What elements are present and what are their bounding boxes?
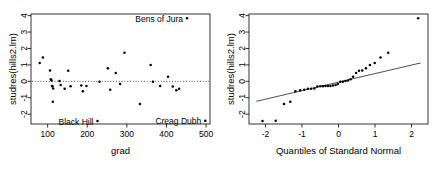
x-axis-tick-label: 200: [80, 129, 94, 139]
data-point: [186, 17, 189, 20]
data-point: [49, 69, 52, 72]
y-axis-tick-label: -2: [19, 110, 29, 118]
y-axis-label: studres(hills2.lm): [7, 33, 18, 105]
data-point: [387, 51, 390, 54]
data-point: [365, 67, 368, 70]
data-point: [342, 80, 345, 83]
data-point: [274, 119, 277, 122]
data-point: [334, 84, 337, 87]
data-point: [96, 120, 99, 123]
data-point: [310, 87, 313, 90]
y-axis-tick-label: 2: [237, 46, 247, 51]
x-axis-tick-label: -1: [298, 129, 306, 139]
data-point: [324, 85, 327, 88]
y-axis-tick-label: 0: [19, 79, 29, 84]
y-axis-tick-label: 2: [19, 46, 29, 51]
y-axis-tick-label: -1: [19, 94, 29, 102]
data-point: [379, 56, 382, 59]
x-axis-label: grad: [111, 145, 130, 156]
data-point: [114, 72, 117, 75]
residuals-vs-grad-panel: 100200300400500-2-101234gradstudres(hill…: [0, 0, 218, 172]
x-axis-tick-label: -2: [262, 129, 270, 139]
data-point: [42, 56, 45, 59]
data-point: [337, 83, 340, 86]
data-point: [339, 81, 342, 84]
data-point: [204, 119, 207, 122]
data-point: [51, 85, 54, 88]
data-point: [349, 78, 352, 81]
data-point: [58, 80, 61, 83]
data-point: [361, 69, 364, 72]
data-point: [316, 85, 319, 88]
data-point: [261, 120, 264, 123]
data-point: [332, 84, 335, 87]
figure-panel-pair: 100200300400500-2-101234gradstudres(hill…: [0, 0, 436, 172]
data-point: [172, 85, 175, 88]
y-axis-tick-label: 4: [237, 13, 247, 18]
data-point: [329, 85, 332, 88]
data-point: [327, 85, 330, 88]
data-point: [347, 79, 350, 82]
data-point: [52, 101, 55, 104]
y-axis-tick-label: 1: [237, 62, 247, 67]
normal-qq-plot: -2-1012-2-101234Quantiles of Standard No…: [218, 0, 436, 172]
x-axis-tick-label: 1: [373, 129, 378, 139]
point-annotation-label: Creag Dubh: [155, 116, 201, 126]
y-axis-tick-label: -2: [237, 110, 247, 118]
y-axis-tick-label: 1: [19, 62, 29, 67]
data-point: [322, 85, 325, 88]
y-axis-tick-label: 0: [237, 79, 247, 84]
data-point: [59, 84, 62, 87]
data-point: [369, 64, 372, 67]
plot-frame: [31, 14, 210, 124]
data-point: [417, 17, 420, 20]
data-point: [358, 69, 361, 72]
data-point: [319, 85, 322, 88]
data-point: [313, 87, 316, 90]
data-point: [152, 81, 155, 84]
point-annotation-label: Black Hill: [59, 117, 94, 127]
data-point: [107, 67, 110, 70]
data-point: [283, 103, 286, 106]
data-point: [119, 83, 122, 86]
data-point: [167, 75, 170, 78]
data-point: [98, 80, 101, 83]
data-point: [175, 89, 178, 92]
y-axis-tick-label: -1: [237, 94, 247, 102]
data-point: [109, 89, 112, 92]
residuals-vs-grad-plot: 100200300400500-2-101234gradstudres(hill…: [0, 0, 218, 172]
data-point: [307, 88, 310, 91]
x-axis-tick-label: 500: [199, 129, 213, 139]
data-point: [344, 80, 347, 83]
data-point: [303, 89, 306, 92]
x-axis-tick-label: 0: [336, 129, 341, 139]
qq-reference-line: [256, 63, 420, 101]
data-point: [294, 90, 297, 93]
data-point: [85, 85, 88, 88]
data-point: [299, 89, 302, 92]
data-point: [139, 103, 142, 106]
data-point: [178, 88, 181, 91]
data-point: [38, 62, 41, 64]
data-point: [355, 72, 358, 75]
data-point: [52, 87, 55, 90]
y-axis-tick-label: 3: [237, 29, 247, 34]
normal-qq-panel: -2-1012-2-101234Quantiles of Standard No…: [218, 0, 436, 172]
data-point: [69, 85, 72, 88]
x-axis-tick-label: 400: [159, 129, 173, 139]
data-point: [82, 90, 85, 93]
point-annotation-label: Bens of Jura: [135, 14, 183, 24]
data-point: [373, 62, 376, 64]
data-point: [80, 84, 83, 87]
x-axis-tick-label: 100: [41, 129, 55, 139]
data-point: [63, 87, 66, 90]
data-point: [67, 69, 70, 72]
data-point: [289, 101, 292, 104]
y-axis-tick-label: 4: [19, 13, 29, 18]
x-axis-tick-label: 300: [120, 129, 134, 139]
y-axis-label: studres(hills2.lm): [225, 33, 236, 105]
x-axis-tick-label: 2: [409, 129, 414, 139]
y-axis-tick-label: 3: [19, 29, 29, 34]
data-point: [159, 85, 162, 88]
data-point: [50, 79, 53, 82]
